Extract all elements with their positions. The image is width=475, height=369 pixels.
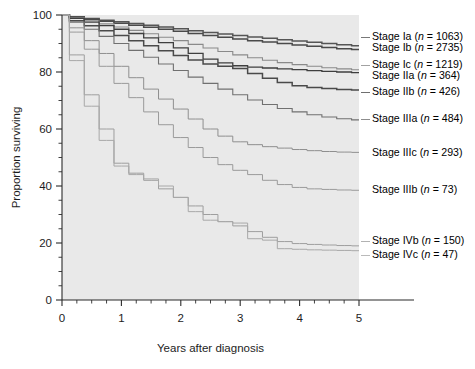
legend-item-stage-ib: Stage Ib (n = 2735) <box>372 41 463 53</box>
survival-curve-stage-iib <box>62 15 359 90</box>
y-tick-label: 40 <box>39 180 52 192</box>
legend-stage-name: Stage Ib <box>372 41 411 53</box>
legend-n-value: 426 <box>439 85 457 97</box>
legend-n-symbol: n <box>421 69 427 81</box>
legend-n-value: 484 <box>442 112 460 124</box>
x-tick-label: 3 <box>237 312 243 324</box>
x-tick-label: 4 <box>296 312 303 324</box>
legend-item-stage-iib: Stage IIb (n = 426) <box>372 85 460 97</box>
y-tick-label: 100 <box>33 9 52 21</box>
legend-n-symbol: n <box>421 85 427 97</box>
legend-n-value: 293 <box>441 146 459 158</box>
legend-n-symbol: n <box>424 183 430 195</box>
legend-n-symbol: n <box>418 41 424 53</box>
legend-stage-name: Stage IVc <box>372 248 418 260</box>
legend-leader-lines <box>361 38 370 256</box>
x-tick-label: 0 <box>59 312 65 324</box>
legend-item-stage-ivc: Stage IVc (n = 47) <box>372 248 458 260</box>
y-tick-label: 20 <box>39 237 52 249</box>
legend-n-symbol: n <box>423 146 429 158</box>
legend-n-symbol: n <box>424 248 430 260</box>
legend-stage-name: Stage IVb <box>372 234 419 246</box>
legend-n-symbol: n <box>424 112 430 124</box>
curves-group <box>62 15 359 251</box>
x-axis-title: Years after diagnosis <box>157 342 264 354</box>
axis-tick-labels: 020406080100012345Years after diagnosisP… <box>10 9 362 354</box>
legend-n-value: 47 <box>442 248 454 260</box>
legend-stage-name: Stage IIa <box>372 69 414 81</box>
legend-n-value: 150 <box>443 234 461 246</box>
survival-curve-stage-iiib <box>62 15 359 190</box>
x-tick-label: 1 <box>118 312 124 324</box>
legend-stage-name: Stage IIIc <box>372 146 417 158</box>
legend-item-stage-iiic: Stage IIIc (n = 293) <box>372 146 462 158</box>
axes-group <box>56 15 414 306</box>
survival-curve-stage-ivb <box>62 15 359 246</box>
legend-n-value: 73 <box>442 183 454 195</box>
legend-item-stage-iia: Stage IIa (n = 364) <box>372 69 460 81</box>
survival-chart-figure: 020406080100012345Years after diagnosisP… <box>0 0 475 369</box>
x-tick-label: 2 <box>178 312 184 324</box>
legend-stage-name: Stage IIb <box>372 85 414 97</box>
x-tick-label: 5 <box>356 312 362 324</box>
y-tick-label: 60 <box>39 123 52 135</box>
legend-item-stage-ivb: Stage IVb (n = 150) <box>372 234 464 246</box>
legend-item-stage-iiib: Stage IIIb (n = 73) <box>372 183 457 195</box>
legend-n-value: 2735 <box>436 41 460 53</box>
legend-item-stage-iiia: Stage IIIa (n = 484) <box>372 112 463 124</box>
legend-stage-name: Stage IIIb <box>372 183 417 195</box>
legend-stage-name: Stage IIIa <box>372 112 417 124</box>
legend-n-symbol: n <box>425 234 431 246</box>
y-tick-label: 0 <box>46 294 52 306</box>
y-tick-label: 80 <box>39 66 52 78</box>
legend-n-value: 364 <box>439 69 457 81</box>
y-axis-title: Proportion surviving <box>10 107 22 209</box>
survival-curve-stage-ivc <box>62 15 359 251</box>
